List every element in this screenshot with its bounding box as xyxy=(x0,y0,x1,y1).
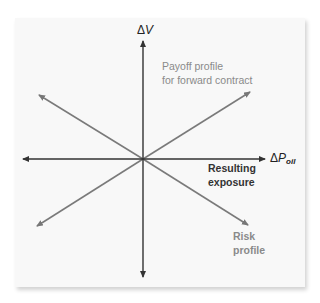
payoff-label-line1: Payoff profile xyxy=(162,60,252,74)
result-label-line1: Resulting xyxy=(208,162,256,176)
y-axis-variable: V xyxy=(145,23,153,37)
resulting-exposure-label: Resulting exposure xyxy=(208,162,256,189)
y-axis-label: ΔV xyxy=(137,24,153,37)
payoff-profile-label: Payoff profile for forward contract xyxy=(162,60,252,87)
result-label-line2: exposure xyxy=(208,176,256,190)
risk-label-line2: profile xyxy=(233,244,265,258)
delta-symbol: Δ xyxy=(137,23,145,37)
delta-symbol: Δ xyxy=(270,151,278,165)
x-axis-subscript: oil xyxy=(286,157,295,166)
x-axis-label: ΔPoil xyxy=(270,152,295,168)
risk-label-line1: Risk xyxy=(233,230,265,244)
risk-profile-label: Risk profile xyxy=(233,230,265,257)
x-axis-variable: P xyxy=(278,151,286,165)
payoff-label-line2: for forward contract xyxy=(162,74,252,88)
